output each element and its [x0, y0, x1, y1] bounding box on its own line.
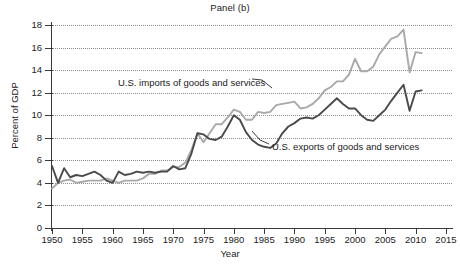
chart-figure: Panel (b) Percent of GDP Year 0246810121… — [0, 0, 460, 267]
leader-line-imports — [252, 79, 272, 88]
leader-line-exports — [252, 131, 269, 144]
annotation-leader-lines — [0, 0, 460, 267]
